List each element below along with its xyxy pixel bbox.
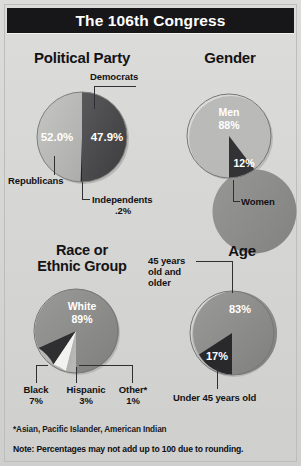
infographic-page: The 106th Congress Political Party	[0, 0, 301, 466]
label-45-and-older-line2: old and	[148, 267, 181, 278]
label-under-45: Under 45 years old	[173, 393, 256, 404]
page-title: The 106th Congress	[76, 12, 226, 30]
leader-under45-v	[217, 367, 218, 389]
leader-other-v	[132, 365, 133, 383]
label-hispanic: Hispanic	[58, 385, 114, 396]
label-hispanic-pct: 3%	[58, 396, 114, 407]
label-black-pct: 7%	[10, 396, 62, 407]
leader-independents-v	[82, 182, 83, 199]
label-independents-pct: .2%	[92, 206, 154, 217]
age-older-pct: 83%	[229, 303, 251, 315]
label-women: Women	[241, 197, 275, 208]
gender-pie: Men 88% 12%	[165, 50, 295, 230]
gender-men-label: Men	[219, 106, 240, 118]
label-republicans: Republicans	[8, 176, 63, 187]
chart-political-party: Political Party	[6, 50, 158, 230]
chart-age: Age 83% 17% 45 years old and ol	[160, 243, 296, 428]
political-party-left-pct: 52.0%	[41, 131, 74, 143]
leader-black-v	[36, 365, 37, 383]
label-independents: Independents	[92, 195, 153, 206]
label-45-and-older-line1: 45 years	[148, 256, 185, 267]
leader-older-v	[232, 261, 233, 293]
label-democrats: Democrats	[90, 72, 138, 83]
leader-hispanic-v	[76, 367, 77, 383]
leader-other-h	[79, 365, 133, 366]
leader-women-h	[233, 201, 240, 202]
label-other: Other*	[110, 385, 156, 396]
label-45-and-older-line3: older	[148, 278, 171, 289]
label-other-pct: 1%	[110, 396, 156, 407]
leader-women-v	[233, 180, 234, 201]
page-title-bar: The 106th Congress	[7, 8, 294, 33]
chart-race-or-ethnic-group: Race or Ethnic Group Whit	[6, 243, 158, 428]
race-white-label: White	[68, 300, 97, 312]
race-footnote: *Asian, Pacific Islander, American India…	[13, 425, 293, 434]
race-white-pct: 89%	[71, 313, 93, 325]
label-black: Black	[10, 385, 62, 396]
leader-republicans-v	[54, 156, 55, 175]
political-party-right-pct: 47.9%	[91, 131, 124, 143]
chart-gender: Gender Men 88% 12% Women	[165, 50, 295, 230]
gender-women-pct: 12%	[233, 157, 255, 169]
leader-black-h	[36, 365, 48, 366]
leader-democrats-h	[94, 86, 136, 87]
age-younger-pct: 17%	[206, 350, 228, 362]
gender-men-pct: 88%	[218, 119, 240, 131]
leader-older-h	[196, 261, 233, 262]
rounding-note: Note: Percentages may not add up to 100 …	[13, 444, 298, 454]
leader-democrats-v	[94, 86, 95, 109]
leader-independents-h	[82, 199, 90, 200]
